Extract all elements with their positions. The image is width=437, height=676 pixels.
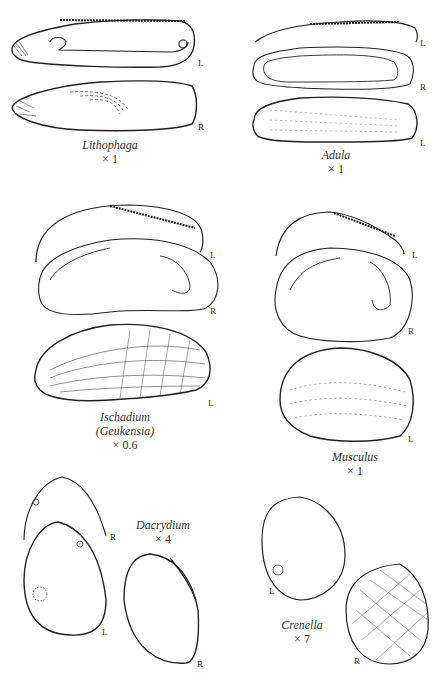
- musculus-view-label-1: L: [412, 250, 418, 260]
- adula-valves: [253, 21, 418, 142]
- ischadium-valves: [35, 205, 218, 401]
- dacrydium-caption: Dacrydium × 4: [118, 518, 208, 546]
- genus-name: Adula: [286, 148, 386, 162]
- ischadium-view-label-1: L: [210, 250, 216, 260]
- genus-name: Musculus: [310, 450, 400, 464]
- magnification: × 1: [286, 162, 386, 176]
- magnification: × 1: [60, 152, 160, 166]
- musculus-valves: [275, 212, 413, 441]
- musculus-view-label-3: L: [408, 434, 414, 444]
- dacrydium-view-label-2: L: [102, 627, 108, 637]
- adula-view-label-3: L: [420, 138, 426, 148]
- magnification: × 1: [310, 464, 400, 478]
- ischadium-caption: Ischadium (Geukensia) × 0.6: [70, 410, 180, 452]
- lithophaga-caption: Lithophaga × 1: [60, 138, 160, 166]
- lithophaga-view-label-1: L: [198, 58, 204, 68]
- lithophaga-left-valve: [12, 20, 195, 67]
- genus-name: Crenella: [262, 618, 342, 632]
- crenella-caption: Crenella × 7: [262, 618, 342, 646]
- crenella-view-label-2: R: [354, 656, 360, 666]
- magnification: × 4: [118, 532, 208, 546]
- dacrydium-view-label-3: R: [197, 659, 203, 669]
- shell-illustration-plate: [0, 0, 437, 676]
- adula-view-label-1: L: [420, 38, 426, 48]
- adula-view-label-2: R: [420, 82, 426, 92]
- genus-name: Lithophaga: [60, 138, 160, 152]
- genus-name: Ischadium: [70, 410, 180, 424]
- magnification: × 0.6: [70, 438, 180, 452]
- genus-name: Dacrydium: [118, 518, 208, 532]
- lithophaga-right-valve: [12, 81, 197, 131]
- lithophaga-view-label-2: R: [198, 122, 204, 132]
- musculus-caption: Musculus × 1: [310, 450, 400, 478]
- dacrydium-view-label-1: R: [110, 532, 116, 542]
- musculus-view-label-2: R: [408, 326, 414, 336]
- ischadium-view-label-3: L: [208, 398, 214, 408]
- magnification: × 7: [262, 632, 342, 646]
- subgenus-name: (Geukensia): [70, 424, 180, 438]
- adula-caption: Adula × 1: [286, 148, 386, 176]
- dacrydium-valves: [24, 477, 199, 663]
- ischadium-view-label-2: R: [210, 306, 216, 316]
- crenella-view-label-1: L: [269, 586, 275, 596]
